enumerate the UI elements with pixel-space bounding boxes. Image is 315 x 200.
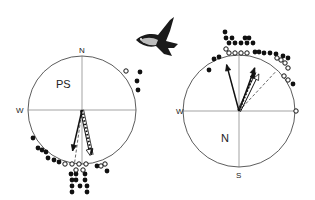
open-dot — [103, 162, 107, 166]
open-dot — [283, 61, 287, 65]
filled-dot — [268, 51, 273, 56]
open-dot — [74, 168, 78, 172]
south-label: S — [236, 171, 241, 180]
west-label: W — [176, 107, 184, 116]
filled-dot — [233, 41, 238, 46]
arrowhead-icon — [86, 149, 91, 155]
open-dot — [282, 74, 286, 78]
open-dot — [84, 162, 88, 166]
open-dot — [227, 51, 231, 55]
filled-dot — [286, 56, 291, 61]
panel-label-ps: PS — [56, 78, 71, 90]
open-dot — [70, 162, 74, 166]
open-dot — [233, 51, 237, 55]
filled-dot — [136, 88, 141, 93]
filled-dot — [105, 169, 110, 174]
open-dot — [239, 51, 243, 55]
circular-plots: N W PS W S N — [0, 0, 315, 200]
filled-dot — [227, 41, 232, 46]
filled-dot — [247, 36, 252, 41]
arrowhead-icon — [71, 144, 76, 150]
open-dot — [224, 47, 228, 51]
vector-arrow-solid — [227, 65, 239, 111]
filled-dot — [207, 68, 212, 73]
filled-dot — [85, 184, 90, 189]
right-orientation-circle: W S N — [176, 55, 295, 180]
filled-dot — [262, 51, 267, 56]
filled-dot — [217, 55, 222, 60]
vector-arrow-double-inner — [238, 73, 256, 111]
filled-dot — [44, 150, 49, 155]
open-dot — [286, 66, 290, 70]
west-label: W — [16, 106, 24, 115]
open-dot — [81, 168, 85, 172]
arrowhead-icon — [226, 65, 231, 71]
filled-dot — [69, 172, 74, 177]
filled-dot — [57, 160, 62, 165]
filled-dot — [239, 41, 244, 46]
flying-bird-icon — [136, 17, 178, 56]
filled-dot — [78, 184, 83, 189]
filled-dot — [52, 158, 57, 163]
filled-dot — [138, 70, 143, 75]
open-dot — [245, 51, 249, 55]
filled-dot — [46, 156, 51, 161]
open-dot — [275, 56, 279, 60]
open-dot — [286, 78, 290, 82]
filled-dot — [135, 79, 140, 84]
open-dot — [124, 69, 128, 73]
north-label: N — [79, 46, 85, 55]
orientation-diagram: N W PS W S N — [0, 0, 315, 200]
filled-dot — [212, 57, 217, 62]
filled-dot — [245, 41, 250, 46]
filled-dot — [224, 36, 229, 41]
filled-dot — [83, 178, 88, 183]
filled-dot — [230, 36, 235, 41]
panel-label-n: N — [221, 132, 229, 144]
filled-dot — [31, 136, 36, 141]
filled-dot — [257, 50, 262, 55]
filled-dot — [70, 184, 75, 189]
filled-dot — [251, 41, 256, 46]
filled-dot — [223, 30, 228, 35]
filled-dot — [85, 190, 90, 195]
filled-dot — [74, 178, 79, 183]
open-dot — [294, 109, 298, 113]
filled-dot — [291, 82, 296, 87]
filled-dot — [70, 190, 75, 195]
open-dot — [77, 162, 81, 166]
vector-arrow-dotted — [82, 110, 92, 155]
open-dot — [63, 162, 67, 166]
